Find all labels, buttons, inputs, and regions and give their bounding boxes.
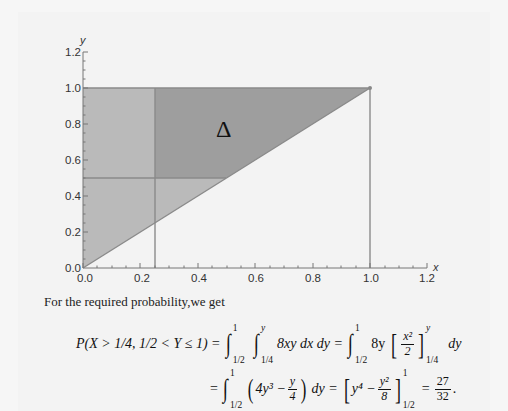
fraction: y 4 <box>288 375 297 402</box>
integral-limits: 1 1/2 <box>355 325 367 363</box>
right-bracket: ] <box>395 374 401 404</box>
delta-region <box>155 88 370 178</box>
x-axis-label: x <box>432 261 439 273</box>
right-paren: ) <box>301 375 307 403</box>
y-tick-label: 0.8 <box>65 118 81 130</box>
equation-line-1: P(X > 1/4, 1/2 < Y ≤ 1) = ∫ 1 1/2 ∫ y 1/… <box>76 322 461 366</box>
differential: dy = <box>312 381 338 397</box>
integrand: 8xy dx dy = <box>277 336 343 352</box>
x-tick-label: 0.6 <box>248 272 264 284</box>
integral-sign: ∫ <box>254 331 259 357</box>
differential: dy <box>448 336 461 352</box>
antiderivative: y⁴ − <box>352 381 376 397</box>
x-tick-label: 0.2 <box>134 272 150 284</box>
y-tick-label: 1.2 <box>65 46 81 58</box>
probability-lhs: P(X > 1/4, 1/2 < Y ≤ 1) = <box>76 336 221 352</box>
period: . <box>453 381 457 397</box>
y-tick-label: 0.6 <box>65 154 81 166</box>
term-4y3: 4y³ − <box>256 381 286 397</box>
integral-sign: ∫ <box>348 331 353 357</box>
equation-line-2: = ∫ 1 1/2 ( 4y³ − y 4 ) dy = [ y⁴ − y² 8… <box>210 367 456 411</box>
evaluation-limits: y 1/4 <box>426 325 438 363</box>
x-tick-label: 1.2 <box>419 272 435 284</box>
delta-region-label: Δ <box>216 116 231 142</box>
coefficient: 8y <box>371 336 385 352</box>
integral-limits: 1 1/2 <box>230 370 242 408</box>
y-axis-label: y <box>79 34 87 46</box>
y-tick-label: 0.4 <box>65 190 82 202</box>
equals-sign: = <box>422 381 430 397</box>
x-tick-label: 0.4 <box>191 272 208 284</box>
fraction: x² 2 <box>401 330 414 357</box>
integral-limits: y 1/4 <box>261 325 273 363</box>
y-tick-label: 1.0 <box>65 82 81 94</box>
y-tick-label: 0.2 <box>65 226 81 238</box>
left-bracket: [ <box>391 329 397 359</box>
x-tick-label: 0.0 <box>77 272 93 284</box>
caption-text: For the required probability,we get <box>44 294 225 310</box>
integral-sign: ∫ <box>226 331 231 357</box>
left-paren: ( <box>248 375 254 403</box>
corner-point <box>368 86 372 90</box>
fraction: y² 8 <box>378 375 391 402</box>
left-bracket: [ <box>344 374 350 404</box>
evaluation-limits: 1 1/2 <box>403 370 415 408</box>
result-fraction: 27 32 <box>435 375 451 402</box>
right-bracket: ] <box>418 329 424 359</box>
integral-sign: ∫ <box>223 376 228 402</box>
equals-sign: = <box>210 381 218 397</box>
probability-region-chart: 0.0 0.2 0.4 0.6 0.8 1.0 1.2 0.0 0.2 0.4 … <box>0 0 508 290</box>
x-tick-label: 0.8 <box>305 272 321 284</box>
integral-limits: 1 1/2 <box>233 325 245 363</box>
x-tick-label: 1.0 <box>363 272 379 284</box>
